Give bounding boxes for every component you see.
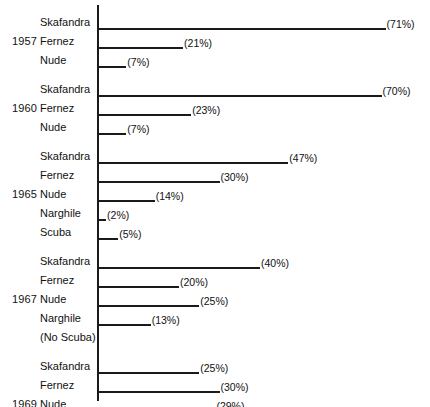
value-bar bbox=[98, 200, 155, 202]
value-bar bbox=[98, 267, 260, 269]
value-bar bbox=[98, 162, 288, 164]
bar-wrapper: (23%) bbox=[98, 99, 191, 118]
bar-value-label: (47%) bbox=[289, 152, 317, 164]
value-bar bbox=[98, 372, 199, 374]
bar-value-label: (14%) bbox=[156, 190, 184, 202]
bar-wrapper: (71%) bbox=[98, 13, 386, 32]
bar-wrapper: (13%) bbox=[98, 309, 151, 328]
row-category-label: Scuba bbox=[40, 223, 71, 242]
bar-wrapper: (47%) bbox=[98, 147, 288, 166]
row-category-label: (No Scuba) bbox=[40, 328, 96, 347]
row-category-label: Narghile bbox=[40, 204, 81, 223]
row-category-label: Nude bbox=[40, 118, 66, 137]
value-bar bbox=[98, 66, 126, 68]
bar-value-label: (30%) bbox=[221, 381, 249, 393]
bar-value-label: (7%) bbox=[127, 123, 149, 135]
chart-row: (No Scuba) bbox=[0, 328, 430, 347]
bar-wrapper: (14%) bbox=[98, 185, 155, 204]
row-category-label: Skafandra bbox=[40, 147, 90, 166]
row-category-label: Skafandra bbox=[40, 252, 90, 271]
value-bar bbox=[98, 47, 183, 49]
bar-wrapper: (30%) bbox=[98, 376, 220, 395]
chart-row: Skafandra(47%) bbox=[0, 147, 430, 166]
bar-value-label: (7%) bbox=[127, 56, 149, 68]
chart-row: Fernez(20%) bbox=[0, 271, 430, 290]
year-label-1969: 1969 bbox=[12, 395, 37, 407]
chart-row: Nude(29%) bbox=[0, 395, 430, 407]
year-label-1967: 1967 bbox=[12, 290, 37, 309]
chart-row: Skafandra(71%) bbox=[0, 13, 430, 32]
bar-wrapper: (7%) bbox=[98, 118, 126, 137]
bar-wrapper: (25%) bbox=[98, 290, 199, 309]
bar-value-label: (20%) bbox=[180, 276, 208, 288]
value-bar bbox=[98, 286, 179, 288]
chart-row: Fernez(30%) bbox=[0, 376, 430, 395]
bar-wrapper: (21%) bbox=[98, 32, 183, 51]
year-label-1960: 1960 bbox=[12, 99, 37, 118]
chart-row: Nude(14%) bbox=[0, 185, 430, 204]
row-category-label: Nude bbox=[40, 395, 66, 407]
bar-value-label: (70%) bbox=[383, 85, 411, 97]
chart-row: Skafandra(70%) bbox=[0, 80, 430, 99]
value-bar bbox=[98, 219, 106, 221]
value-bar bbox=[98, 133, 126, 135]
row-category-label: Fernez bbox=[40, 376, 74, 395]
chart-row: Nude(25%) bbox=[0, 290, 430, 309]
bar-value-label: (2%) bbox=[107, 209, 129, 221]
chart-row: Nude(7%) bbox=[0, 51, 430, 70]
percentage-bar-chart: Skafandra(71%)Fernez(21%)Nude(7%)1957Ska… bbox=[0, 0, 430, 407]
chart-row: Scuba(5%) bbox=[0, 223, 430, 242]
bar-value-label: (21%) bbox=[184, 37, 212, 49]
bar-value-label: (40%) bbox=[261, 257, 289, 269]
row-category-label: Fernez bbox=[40, 166, 74, 185]
bar-wrapper: (2%) bbox=[98, 204, 106, 223]
row-category-label: Skafandra bbox=[40, 357, 90, 376]
row-category-label: Fernez bbox=[40, 32, 74, 51]
bar-value-label: (71%) bbox=[387, 18, 415, 30]
value-bar bbox=[98, 324, 151, 326]
row-category-label: Fernez bbox=[40, 99, 74, 118]
bar-value-label: (23%) bbox=[192, 104, 220, 116]
value-bar bbox=[98, 238, 118, 240]
value-bar bbox=[98, 305, 199, 307]
value-bar bbox=[98, 181, 220, 183]
chart-row: Nude(7%) bbox=[0, 118, 430, 137]
row-category-label: Narghile bbox=[40, 309, 81, 328]
year-label-1957: 1957 bbox=[12, 32, 37, 51]
row-category-label: Skafandra bbox=[40, 13, 90, 32]
row-category-label: Skafandra bbox=[40, 80, 90, 99]
bar-value-label: (25%) bbox=[200, 362, 228, 374]
chart-row: Skafandra(25%) bbox=[0, 357, 430, 376]
bar-value-label: (25%) bbox=[200, 295, 228, 307]
value-bar bbox=[98, 28, 386, 30]
value-bar bbox=[98, 95, 382, 97]
bar-wrapper: (70%) bbox=[98, 80, 382, 99]
row-category-label: Nude bbox=[40, 290, 66, 309]
row-category-label: Fernez bbox=[40, 271, 74, 290]
row-category-label: Nude bbox=[40, 185, 66, 204]
chart-row: Narghile(2%) bbox=[0, 204, 430, 223]
chart-row: Narghile(13%) bbox=[0, 309, 430, 328]
bar-value-label: (13%) bbox=[152, 314, 180, 326]
chart-row: Skafandra(40%) bbox=[0, 252, 430, 271]
bar-wrapper: (25%) bbox=[98, 357, 199, 376]
row-category-label: Nude bbox=[40, 51, 66, 70]
bar-value-label: (30%) bbox=[221, 171, 249, 183]
bar-wrapper: (30%) bbox=[98, 166, 220, 185]
value-bar bbox=[98, 391, 220, 393]
bar-wrapper: (7%) bbox=[98, 51, 126, 70]
chart-row: Fernez(21%) bbox=[0, 32, 430, 51]
value-bar bbox=[98, 114, 191, 116]
bar-wrapper: (5%) bbox=[98, 223, 118, 242]
bar-value-label: (29%) bbox=[216, 400, 244, 407]
bar-value-label: (5%) bbox=[119, 228, 141, 240]
bar-wrapper: (29%) bbox=[98, 395, 215, 407]
bar-wrapper: (20%) bbox=[98, 271, 179, 290]
chart-row: Fernez(23%) bbox=[0, 99, 430, 118]
bar-wrapper: (40%) bbox=[98, 252, 260, 271]
year-label-1965: 1965 bbox=[12, 185, 37, 204]
chart-row: Fernez(30%) bbox=[0, 166, 430, 185]
